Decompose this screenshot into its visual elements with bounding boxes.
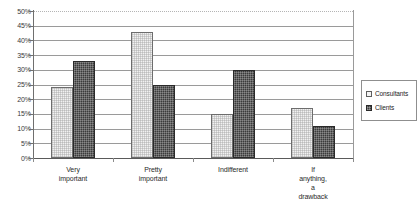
legend-swatch-icon-clients [366, 105, 372, 111]
gridline [33, 11, 353, 12]
x-axis-category-label: Veryimportant [33, 165, 113, 183]
legend-item-clients: Clients [366, 101, 413, 114]
legend-item-consultants: Consultants [366, 87, 413, 100]
y-axis-tick-label: 20% [3, 96, 31, 103]
x-axis-tick-mark [353, 158, 354, 162]
gridline [33, 40, 353, 41]
y-axis-tick-label: 30% [3, 66, 31, 73]
chart-legend: Consultants Clients [361, 80, 417, 121]
legend-label-consultants: Consultants [375, 90, 408, 97]
x-axis-category-label: Ifanything,adrawback [273, 165, 353, 201]
x-axis-category-label: Prettyimportant [113, 165, 193, 183]
y-axis-tick-label: 45% [3, 22, 31, 29]
bar-consultants-2 [211, 114, 233, 158]
gridline [33, 55, 353, 56]
legend-label-clients: Clients [375, 104, 394, 111]
y-axis-line [33, 10, 34, 159]
x-axis-tick-mark [113, 158, 114, 162]
y-axis-tick-label: 0% [3, 155, 31, 162]
y-axis-tick-label: 35% [3, 52, 31, 59]
y-axis-labels: 50%45%40%35%30%25%20%15%10%5%0% [0, 0, 31, 223]
bar-clients-2 [233, 70, 255, 158]
y-axis-tick-label: 25% [3, 81, 31, 88]
legend-swatch-icon-consultants [366, 91, 372, 97]
bar-clients-3 [313, 126, 335, 158]
bar-chart: 50%45%40%35%30%25%20%15%10%5%0% Veryimpo… [0, 0, 420, 223]
y-axis-tick-label: 15% [3, 110, 31, 117]
gridline [33, 26, 353, 27]
plot-area [33, 11, 353, 158]
y-axis-tick-label: 5% [3, 140, 31, 147]
plot-right-border [353, 10, 354, 159]
y-axis-tick-label: 50% [3, 8, 31, 15]
x-axis-tick-mark [273, 158, 274, 162]
x-axis-tick-mark [193, 158, 194, 162]
y-axis-tick-label: 40% [3, 37, 31, 44]
y-axis-tick-label: 10% [3, 125, 31, 132]
x-axis-tick-mark [33, 158, 34, 162]
x-axis-category-label: Indifferent [193, 165, 273, 174]
bar-clients-0 [73, 61, 95, 158]
bar-consultants-3 [291, 108, 313, 158]
bar-consultants-1 [131, 32, 153, 158]
bar-clients-1 [153, 85, 175, 159]
bar-consultants-0 [51, 87, 73, 158]
